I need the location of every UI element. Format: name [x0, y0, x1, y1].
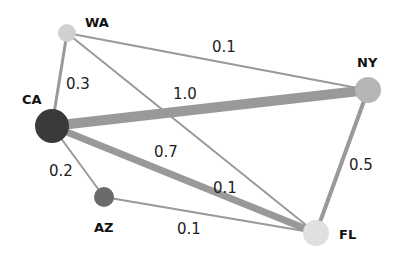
edge-weight-label: 0.5: [349, 156, 373, 174]
graph-canvas: 0.10.30.11.00.70.20.10.5 WANYCAAZFL: [0, 0, 402, 255]
edge-weight-label: 0.1: [177, 220, 201, 238]
edge-az-fl: [104, 197, 316, 233]
node-label-ny: NY: [357, 55, 378, 70]
edge-weight-label: 0.1: [212, 38, 236, 56]
edge-weight-label: 0.7: [154, 143, 178, 161]
edge-ca-ny: [52, 90, 368, 126]
node-label-fl: FL: [339, 227, 356, 242]
node-ca: [35, 109, 69, 143]
node-label-wa: WA: [85, 15, 109, 30]
node-wa: [58, 24, 76, 42]
edge-weight-label: 1.0: [173, 85, 197, 103]
network-diagram: 0.10.30.11.00.70.20.10.5 WANYCAAZFL: [0, 0, 402, 255]
node-az: [94, 187, 114, 207]
node-fl: [303, 220, 329, 246]
edge-weight-label: 0.3: [66, 75, 90, 93]
nodes-layer: [35, 24, 381, 246]
edge-weight-label: 0.1: [213, 179, 237, 197]
node-label-ca: CA: [22, 92, 42, 107]
node-ny: [355, 77, 381, 103]
node-label-az: AZ: [94, 220, 114, 235]
edge-weight-label: 0.2: [49, 162, 73, 180]
